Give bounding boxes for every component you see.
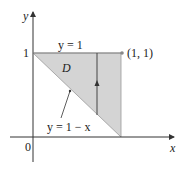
y-axis-label: y bbox=[22, 9, 29, 23]
pointer-dot bbox=[69, 90, 71, 92]
top-line-label: y = 1 bbox=[58, 38, 83, 52]
region-diagram: y x 0 1 y = 1 D y = 1 − x (1, 1) bbox=[0, 0, 189, 172]
y-tick-label: 1 bbox=[23, 46, 29, 60]
point-1-1 bbox=[120, 51, 124, 55]
label-pointer bbox=[61, 91, 70, 118]
x-axis-label: x bbox=[169, 141, 176, 155]
origin-label: 0 bbox=[25, 140, 31, 154]
point-label: (1, 1) bbox=[127, 46, 153, 60]
bottom-line-label: y = 1 − x bbox=[47, 120, 91, 134]
region-label: D bbox=[61, 61, 71, 75]
